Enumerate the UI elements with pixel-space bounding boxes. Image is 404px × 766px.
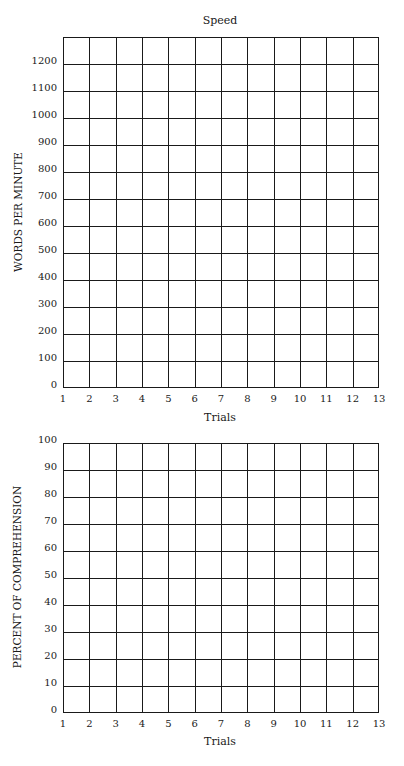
grid-horizontal-line — [64, 280, 378, 281]
x-tick-label: 13 — [369, 393, 389, 405]
speed-x-axis-label: Trials — [170, 411, 270, 424]
y-tick-label: 200 — [17, 325, 57, 337]
grid-horizontal-line — [64, 145, 378, 146]
y-tick-label: 60 — [17, 542, 57, 554]
y-tick-label: 40 — [17, 596, 57, 608]
x-tick-label: 3 — [106, 393, 126, 405]
grid-horizontal-line — [64, 334, 378, 335]
y-tick-label: 100 — [17, 434, 57, 446]
x-tick-label: 7 — [211, 718, 231, 730]
grid-horizontal-line — [64, 64, 378, 65]
speed-y-axis-label: WORDS PER MINUTE — [12, 132, 24, 292]
grid-horizontal-line — [64, 659, 378, 660]
grid-horizontal-line — [64, 91, 378, 92]
x-tick-label: 11 — [316, 718, 336, 730]
x-tick-label: 5 — [158, 718, 178, 730]
grid-horizontal-line — [64, 551, 378, 552]
x-tick-label: 6 — [185, 393, 205, 405]
grid-horizontal-line — [64, 361, 378, 362]
grid-horizontal-line — [64, 253, 378, 254]
grid-horizontal-line — [64, 172, 378, 173]
y-tick-label: 700 — [17, 190, 57, 202]
y-tick-label: 50 — [17, 569, 57, 581]
x-tick-label: 13 — [369, 718, 389, 730]
x-tick-label: 1 — [53, 393, 73, 405]
y-tick-label: 30 — [17, 623, 57, 635]
y-tick-label: 600 — [17, 217, 57, 229]
x-tick-label: 3 — [106, 718, 126, 730]
x-tick-label: 4 — [132, 718, 152, 730]
x-tick-label: 1 — [53, 718, 73, 730]
x-tick-label: 8 — [237, 718, 257, 730]
grid-horizontal-line — [64, 524, 378, 525]
x-tick-label: 6 — [185, 718, 205, 730]
y-tick-label: 1100 — [17, 82, 57, 94]
x-tick-label: 12 — [343, 718, 363, 730]
y-tick-label: 0 — [17, 704, 57, 716]
x-tick-label: 10 — [290, 718, 310, 730]
y-tick-label: 1200 — [17, 55, 57, 67]
y-tick-label: 500 — [17, 244, 57, 256]
grid-horizontal-line — [64, 686, 378, 687]
y-tick-label: 400 — [17, 271, 57, 283]
speed-chart-title: Speed — [170, 14, 270, 27]
grid-horizontal-line — [64, 632, 378, 633]
comprehension-x-axis-label: Trials — [170, 735, 270, 748]
grid-horizontal-line — [64, 226, 378, 227]
x-tick-label: 11 — [316, 393, 336, 405]
x-tick-label: 2 — [79, 393, 99, 405]
comprehension-chart-grid — [63, 443, 379, 713]
y-tick-label: 1000 — [17, 109, 57, 121]
x-tick-label: 7 — [211, 393, 231, 405]
y-tick-label: 90 — [17, 461, 57, 473]
y-tick-label: 900 — [17, 136, 57, 148]
x-tick-label: 2 — [79, 718, 99, 730]
grid-horizontal-line — [64, 578, 378, 579]
y-tick-label: 800 — [17, 163, 57, 175]
y-tick-label: 300 — [17, 298, 57, 310]
x-tick-label: 10 — [290, 393, 310, 405]
y-tick-label: 100 — [17, 352, 57, 364]
y-tick-label: 20 — [17, 650, 57, 662]
x-tick-label: 9 — [264, 393, 284, 405]
grid-horizontal-line — [64, 497, 378, 498]
grid-horizontal-line — [64, 605, 378, 606]
grid-horizontal-line — [64, 199, 378, 200]
x-tick-label: 4 — [132, 393, 152, 405]
y-tick-label: 70 — [17, 515, 57, 527]
x-tick-label: 8 — [237, 393, 257, 405]
y-tick-label: 80 — [17, 488, 57, 500]
y-tick-label: 10 — [17, 677, 57, 689]
grid-horizontal-line — [64, 470, 378, 471]
grid-horizontal-line — [64, 118, 378, 119]
y-tick-label: 0 — [17, 379, 57, 391]
x-tick-label: 5 — [158, 393, 178, 405]
x-tick-label: 9 — [264, 718, 284, 730]
x-tick-label: 12 — [343, 393, 363, 405]
speed-chart-grid — [63, 37, 379, 388]
grid-horizontal-line — [64, 307, 378, 308]
